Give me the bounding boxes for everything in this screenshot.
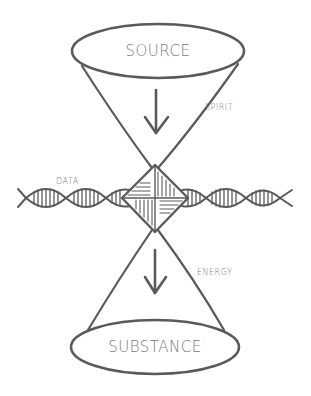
dna-helix-right (182, 189, 292, 207)
upper-funnel (82, 64, 238, 168)
center-diamond (122, 165, 188, 232)
source-label: SOURCE (126, 42, 191, 60)
dna-helix-left (18, 189, 130, 207)
substance-label: SUBSTANCE (108, 338, 202, 356)
data-label: DATA (56, 177, 79, 186)
spirit-arrow-icon (145, 90, 168, 133)
spirit-label: SPIRIT (205, 103, 233, 112)
energy-label: ENERGY (197, 268, 232, 277)
energy-arrow-icon (145, 250, 166, 293)
hourglass-diagram: SOURCE SUBSTANCE SPIRIT DATA ENERGY (0, 0, 311, 396)
